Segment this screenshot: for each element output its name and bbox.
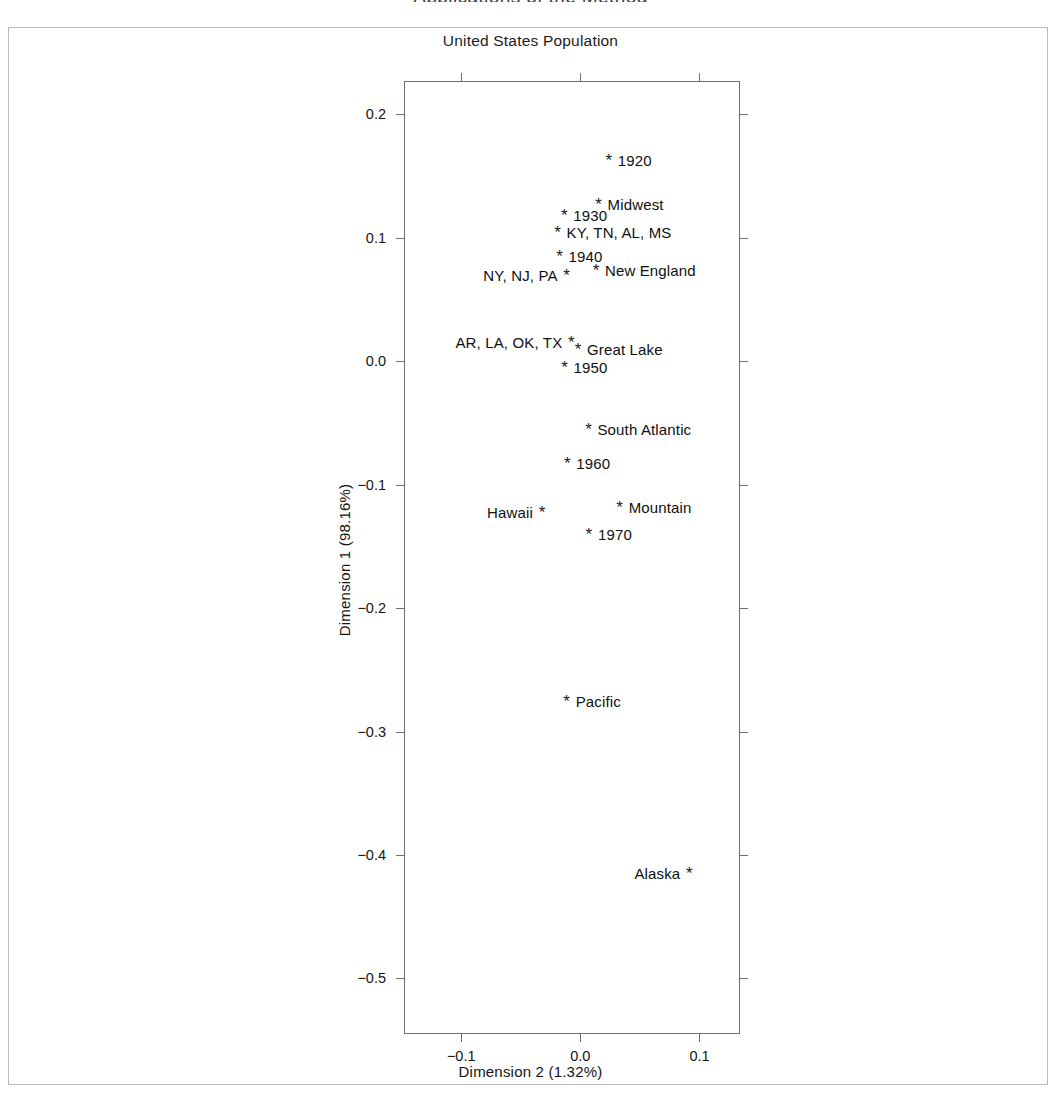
asterisk-marker-icon: *: [606, 152, 613, 169]
y-axis-tick: [396, 978, 404, 979]
asterisk-marker-icon: *: [561, 207, 568, 224]
data-point-label: 1930: [573, 208, 607, 223]
x-axis-tick: [461, 73, 462, 81]
data-point-label: Hawaii: [487, 505, 533, 520]
y-axis-tick: [396, 238, 404, 239]
data-point-label: KY, TN, AL, MS: [567, 225, 672, 240]
data-point-label: 1970: [598, 527, 632, 542]
y-axis-tick: [396, 855, 404, 856]
x-axis-tick: [699, 1034, 700, 1042]
y-axis-tick: [396, 608, 404, 609]
x-axis-tick: [461, 1034, 462, 1042]
asterisk-marker-icon: *: [686, 864, 693, 881]
y-axis-tick-label: −0.5: [294, 970, 386, 986]
data-point-label: 1950: [574, 359, 608, 374]
asterisk-marker-icon: *: [556, 247, 563, 264]
y-axis-tick-label: −0.4: [294, 847, 386, 863]
asterisk-marker-icon: *: [539, 504, 546, 521]
x-axis-tick: [580, 1034, 581, 1042]
asterisk-marker-icon: *: [554, 224, 561, 241]
data-point-label: 1920: [618, 153, 652, 168]
data-point-label: Pacific: [576, 693, 621, 708]
x-axis-tick-label: 0.0: [570, 1048, 590, 1064]
y-axis-tick: [740, 114, 748, 115]
asterisk-marker-icon: *: [564, 455, 571, 472]
asterisk-marker-icon: *: [563, 692, 570, 709]
chart-title: United States Population: [0, 32, 1061, 50]
data-point-label: AR, LA, OK, TX: [455, 335, 562, 350]
y-axis-tick-label: 0.2: [294, 106, 386, 122]
data-point-label: Alaska: [634, 865, 680, 880]
asterisk-marker-icon: *: [616, 499, 623, 516]
data-point-label: South Atlantic: [597, 422, 691, 437]
y-axis-tick: [396, 361, 404, 362]
y-axis-tick: [740, 238, 748, 239]
y-axis-tick: [740, 608, 748, 609]
asterisk-marker-icon: *: [575, 340, 582, 357]
data-point-label: 1960: [576, 456, 610, 471]
y-axis-tick: [740, 978, 748, 979]
y-axis-tick-label: −0.3: [294, 724, 386, 740]
y-axis-tick: [396, 114, 404, 115]
data-point-label: Midwest: [608, 196, 664, 211]
y-axis-tick-label: −0.2: [294, 600, 386, 616]
asterisk-marker-icon: *: [563, 266, 570, 283]
data-point-label: New England: [605, 262, 696, 277]
x-axis-tick-label: −0.1: [447, 1048, 476, 1064]
y-axis-tick: [396, 732, 404, 733]
asterisk-marker-icon: *: [585, 421, 592, 438]
y-axis-tick: [740, 361, 748, 362]
data-point-label: Great Lake: [587, 341, 663, 356]
x-axis-tick: [580, 73, 581, 81]
data-point-label: NY, NJ, PA: [483, 267, 557, 282]
y-axis-tick: [740, 732, 748, 733]
x-axis-tick-label: 0.1: [689, 1048, 709, 1064]
y-axis-title: Dimension 1 (98.16%): [336, 360, 353, 760]
asterisk-marker-icon: *: [593, 261, 600, 278]
y-axis-tick-label: 0.1: [294, 230, 386, 246]
x-axis-tick: [699, 73, 700, 81]
y-axis-tick: [740, 485, 748, 486]
asterisk-marker-icon: *: [568, 334, 575, 351]
asterisk-marker-icon: *: [586, 526, 593, 543]
y-axis-tick: [740, 855, 748, 856]
cropped-page-heading: Applications of the Method: [0, 0, 1061, 2]
y-axis-tick-label: 0.0: [294, 353, 386, 369]
x-axis-title: Dimension 2 (1.32%): [0, 1063, 1061, 1080]
y-axis-tick-label: −0.1: [294, 477, 386, 493]
y-axis-tick: [396, 485, 404, 486]
asterisk-marker-icon: *: [561, 358, 568, 375]
data-point-label: Mountain: [629, 500, 692, 515]
